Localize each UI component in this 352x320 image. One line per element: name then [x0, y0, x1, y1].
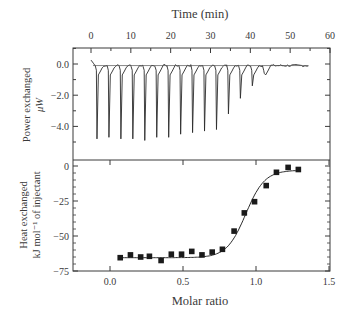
top-y-tick-label: −4.0 — [51, 121, 69, 132]
data-point-marker — [252, 199, 258, 205]
top-x-ticks: 0102030405060 — [89, 30, 336, 53]
data-point-marker — [189, 249, 195, 255]
data-point-marker — [199, 252, 205, 258]
data-point-marker — [285, 165, 291, 171]
bottom-y-ticks: 0−25−50−75 — [53, 161, 330, 277]
thermogram-panel: Time (min) 0102030405060 0.0−2.0−4.0 Pow… — [21, 7, 335, 142]
top-y-axis-title-line2: μW — [34, 97, 45, 113]
chart-svg: Time (min) 0102030405060 0.0−2.0−4.0 Pow… — [0, 0, 352, 320]
top-y-axis-title: Power exchanged μW — [21, 67, 45, 142]
data-point-marker — [263, 183, 269, 189]
data-point-marker — [242, 210, 248, 216]
bottom-y-tick-label: −25 — [53, 196, 69, 207]
itc-figure: Time (min) 0102030405060 0.0−2.0−4.0 Pow… — [0, 0, 352, 320]
top-y-tick-label: 0.0 — [57, 59, 70, 70]
top-x-axis-title: Time (min) — [172, 7, 229, 21]
data-points — [117, 165, 301, 264]
bottom-y-tick-label: 0 — [64, 161, 69, 172]
data-point-marker — [274, 170, 280, 176]
data-point-marker — [220, 247, 226, 253]
bottom-y-tick-label: −50 — [53, 231, 69, 242]
bottom-y-tick-label: −75 — [53, 266, 69, 277]
data-point-marker — [179, 251, 185, 257]
fit-curve — [120, 171, 300, 258]
top-y-axis-title-line1: Power exchanged — [21, 67, 32, 142]
data-point-marker — [138, 254, 144, 260]
top-x-tick-label: 40 — [245, 30, 255, 41]
data-point-marker — [158, 258, 164, 264]
bottom-x-tick-label: 1.5 — [323, 276, 336, 287]
top-x-tick-label: 20 — [166, 30, 176, 41]
top-x-tick-label: 30 — [206, 30, 216, 41]
bottom-x-tick-label: 1.0 — [250, 276, 263, 287]
top-x-tick-label: 50 — [285, 30, 295, 41]
bottom-x-tick-label: 0.5 — [177, 276, 190, 287]
binding-isotherm-panel: 0.00.51.01.5 0−25−50−75 Molar ratio Heat… — [18, 160, 335, 308]
bottom-x-tick-label: 0.0 — [104, 276, 117, 287]
top-x-tick-label: 60 — [325, 30, 335, 41]
top-x-tick-label: 0 — [89, 30, 94, 41]
top-x-tick-label: 10 — [126, 30, 136, 41]
thermogram-trace — [91, 60, 308, 140]
bottom-x-ticks: 0.00.51.01.5 — [104, 160, 336, 287]
data-point-marker — [117, 255, 123, 261]
bottom-y-axis-title-line2: kJ mol⁻¹ of injectant — [31, 171, 42, 258]
data-point-marker — [169, 251, 175, 257]
data-point-marker — [128, 252, 134, 258]
bottom-y-axis-title-line1: Heat exchanged — [18, 181, 29, 249]
data-point-marker — [209, 249, 215, 255]
data-point-marker — [296, 167, 302, 173]
data-point-marker — [147, 254, 153, 260]
bottom-y-axis-title: Heat exchanged kJ mol⁻¹ of injectant — [18, 171, 42, 258]
bottom-x-axis-title: Molar ratio — [172, 294, 229, 308]
data-point-marker — [231, 228, 237, 234]
top-y-tick-label: −2.0 — [51, 90, 69, 101]
